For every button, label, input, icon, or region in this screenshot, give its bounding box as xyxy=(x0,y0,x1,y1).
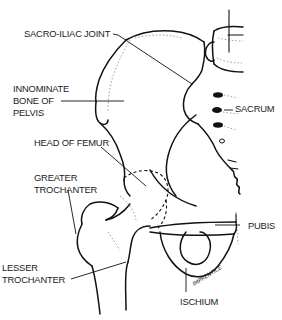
ilium-drawing xyxy=(96,31,232,196)
label-innominate-line1: INNOMINATE xyxy=(13,83,69,94)
label-innominate-line3: PELVIS xyxy=(13,107,44,118)
pelvis-diagram: SACRO-ILIAC JOINT INNOMINATE BONE OF PEL… xyxy=(0,0,282,320)
leader-greater-trochanter xyxy=(68,190,76,234)
label-head-of-femur: HEAD OF FEMUR xyxy=(34,137,109,148)
label-greater-trochanter-line1: GREATER xyxy=(34,172,78,183)
leader-lines xyxy=(61,34,240,292)
femur-drawing xyxy=(77,196,150,314)
label-innominate-line2: BONE OF xyxy=(13,95,54,106)
label-sacro-iliac-joint: SACRO-ILIAC JOINT xyxy=(24,28,111,39)
femur-head-drawing xyxy=(124,171,168,228)
label-lesser-trochanter-line2: TROCHANTER xyxy=(2,274,66,285)
artist-signature: IMPRENTICE xyxy=(191,264,223,287)
vertebra-drawing xyxy=(205,10,243,72)
label-lesser-trochanter-line1: LESSER xyxy=(2,262,38,273)
label-greater-trochanter-line2: TROCHANTER xyxy=(34,184,98,195)
label-sacrum: SACRUM xyxy=(235,103,275,114)
label-pubis: PUBIS xyxy=(248,220,275,231)
pelvic-inner-curve xyxy=(150,115,196,206)
leader-lesser-trochanter xyxy=(71,262,126,279)
labels: SACRO-ILIAC JOINT INNOMINATE BONE OF PEL… xyxy=(2,28,275,307)
label-ischium: ISCHIUM xyxy=(180,296,219,307)
